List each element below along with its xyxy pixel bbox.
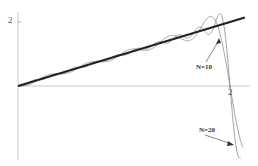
annotation-n20: N=20 (199, 126, 215, 134)
arrow-n10 (206, 38, 221, 62)
annotation-n10: N=10 (196, 63, 212, 71)
arrow-n20 (205, 135, 234, 146)
series-f-x-equals-x (18, 18, 245, 86)
x-tick-label-2: 2 (228, 87, 233, 97)
y-tick-label-2: 2 (8, 15, 13, 25)
fourier-approximation-plot (0, 0, 258, 166)
